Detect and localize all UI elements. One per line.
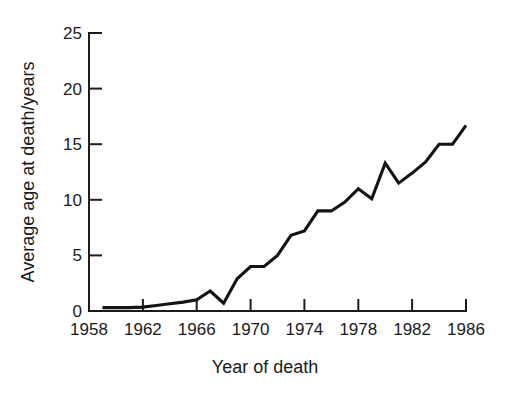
- x-tick-label-1974: 1974: [285, 320, 323, 339]
- y-tick-label-10: 10: [63, 191, 82, 210]
- x-tick-label-1978: 1978: [339, 320, 377, 339]
- x-axis-tick-labels: 1958 1962 1966 1970 1974 1978 1982 1986: [70, 320, 485, 339]
- y-tick-label-15: 15: [63, 135, 82, 154]
- x-axis-ticks: [89, 299, 466, 311]
- y-axis-title: Average age at death/years: [18, 62, 38, 283]
- y-axis-tick-labels: 0 5 10 15 20 25: [63, 24, 82, 321]
- x-tick-label-1970: 1970: [232, 320, 270, 339]
- x-tick-label-1958: 1958: [70, 320, 108, 339]
- y-tick-label-25: 25: [63, 24, 82, 43]
- line-chart: 0 5 10 15 20 25 1958 1962 1966 1970 1974…: [0, 0, 511, 395]
- y-tick-label-5: 5: [73, 246, 82, 265]
- chart-figure: 0 5 10 15 20 25 1958 1962 1966 1970 1974…: [0, 0, 511, 395]
- x-axis-title: Year of death: [212, 357, 318, 377]
- x-tick-label-1966: 1966: [178, 320, 216, 339]
- x-tick-label-1982: 1982: [393, 320, 431, 339]
- x-tick-label-1962: 1962: [124, 320, 162, 339]
- y-tick-label-0: 0: [73, 302, 82, 321]
- x-tick-label-1986: 1986: [447, 320, 485, 339]
- y-tick-label-20: 20: [63, 80, 82, 99]
- data-series-line: [102, 125, 466, 307]
- y-axis-ticks: [89, 33, 102, 311]
